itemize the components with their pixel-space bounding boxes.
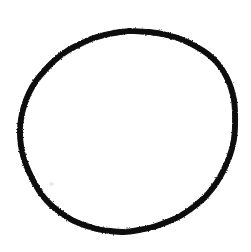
- circle-sketch-svg: [0, 0, 251, 252]
- circle-outline: [20, 31, 235, 232]
- sketch-canvas: [0, 0, 251, 252]
- sketch-stroke-group: [20, 31, 235, 232]
